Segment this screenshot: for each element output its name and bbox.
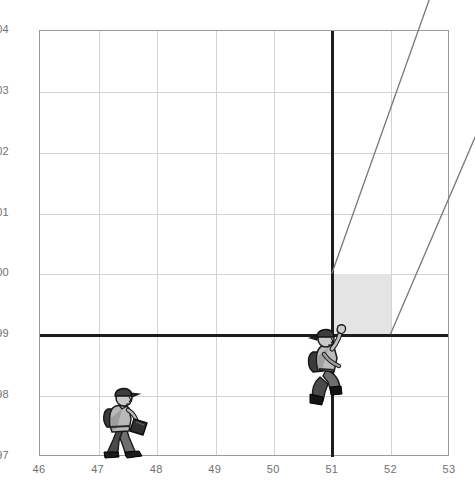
gridline-vertical-49 — [216, 31, 217, 455]
gridline-vertical-52 — [391, 31, 392, 455]
horizontal-reference-99 — [40, 334, 448, 337]
gridline-horizontal-103 — [40, 92, 448, 93]
y-tick-label-03: 03 — [0, 84, 9, 96]
x-tick-label-47: 47 — [86, 463, 110, 475]
gridline-vertical-48 — [157, 31, 158, 455]
y-tick-label-04: 04 — [0, 23, 9, 35]
x-tick-label-49: 49 — [203, 463, 227, 475]
y-tick-label-97: 97 — [0, 449, 9, 461]
y-tick-label-99: 99 — [0, 327, 9, 339]
y-tick-label-02: 02 — [0, 145, 9, 157]
x-tick-label-51: 51 — [320, 463, 344, 475]
y-tick-label-01: 01 — [0, 206, 9, 218]
walking-person-icon — [98, 385, 150, 461]
y-tick-label-00: 00 — [0, 266, 9, 278]
gridline-horizontal-101 — [40, 214, 448, 215]
chart-canvas: 9798990001020304 4647484950515253 — [0, 0, 475, 493]
y-tick-label-98: 98 — [0, 388, 9, 400]
x-tick-label-50: 50 — [261, 463, 285, 475]
x-tick-label-48: 48 — [144, 463, 168, 475]
x-tick-label-53: 53 — [437, 463, 461, 475]
climbing-person-icon — [304, 322, 356, 414]
gridline-vertical-50 — [274, 31, 275, 455]
x-tick-label-46: 46 — [27, 463, 51, 475]
gridline-horizontal-102 — [40, 153, 448, 154]
x-tick-label-52: 52 — [378, 463, 402, 475]
